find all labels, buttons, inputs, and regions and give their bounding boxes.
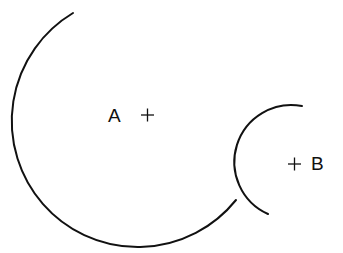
circle-a-arc [12, 13, 236, 247]
circle-b-label: B [311, 154, 324, 173]
diagram-canvas [0, 0, 343, 253]
circle-b-arc [234, 105, 302, 214]
plus-icon [288, 158, 301, 171]
plus-icon [141, 109, 154, 122]
circle-a-label: A [108, 106, 121, 125]
